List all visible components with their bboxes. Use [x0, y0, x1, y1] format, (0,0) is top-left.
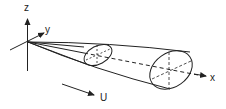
x-axis-label: x	[210, 72, 215, 83]
y-axis-label: y	[45, 24, 50, 35]
flow-velocity-label: U	[100, 92, 107, 103]
flow-velocity-arrow: U	[62, 84, 107, 103]
z-axis-label: z	[24, 2, 29, 13]
z-axis: z	[24, 2, 29, 71]
diagram-canvas: z y x U	[0, 0, 226, 109]
large-ellipse-cross-section	[142, 43, 199, 97]
cone-mid-edge-lower	[28, 42, 86, 64]
x-axis: x	[28, 42, 215, 83]
y-axis: y	[10, 24, 50, 50]
